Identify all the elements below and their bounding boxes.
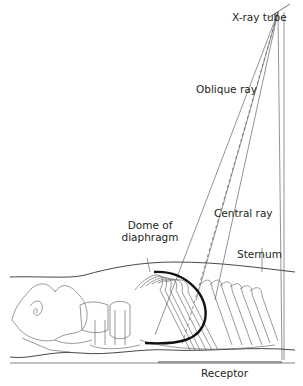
diagram-drawing	[0, 0, 303, 386]
skull	[12, 284, 92, 352]
spine	[80, 301, 140, 349]
label-receptor: Receptor	[201, 367, 248, 379]
body-outline	[10, 262, 295, 363]
dome-leader-line	[147, 258, 150, 272]
label-sternum: Sternum	[237, 248, 282, 260]
receptor-plate	[158, 361, 282, 364]
label-xray-tube: X-ray tube	[232, 11, 287, 23]
label-central-ray: Central ray	[214, 207, 273, 219]
vertical-ray-line	[278, 12, 282, 360]
label-oblique-ray: Oblique ray	[196, 83, 257, 95]
label-dome-line2: diaphragm	[120, 231, 180, 243]
beam-rays	[155, 12, 284, 360]
oblique-ray-outer-line	[155, 12, 278, 335]
label-dome-line1: Dome of	[120, 219, 180, 231]
label-dome-of-diaphragm: Dome of diaphragm	[120, 219, 180, 243]
xray-positioning-diagram: X-ray tube Oblique ray Central ray Dome …	[0, 0, 303, 386]
